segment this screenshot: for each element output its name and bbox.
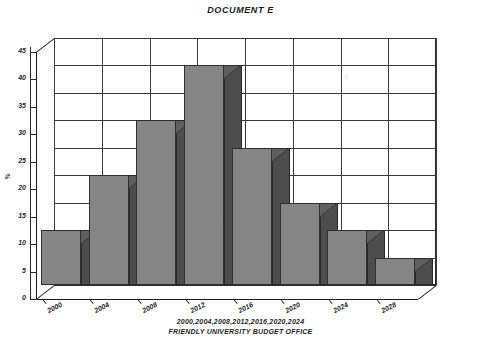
y-tick-20 — [30, 189, 37, 190]
y-tick-5 — [30, 272, 37, 273]
x-tick-label-2028: 2028 — [380, 301, 397, 314]
y-tick-label-40: 40 — [4, 74, 26, 81]
x-tick-label-2020: 2020 — [284, 301, 301, 314]
bar-front-face — [89, 175, 129, 285]
y-tick-label-0: 0 — [4, 294, 26, 301]
x-tick-label-2008: 2008 — [141, 301, 158, 314]
plot-area: 051015202530354045 % 2000200420082012201… — [0, 0, 481, 351]
bar-front-face — [136, 120, 176, 285]
bar-front-face — [280, 203, 320, 285]
bar-2028[interactable] — [375, 258, 433, 299]
x-axis-baseline — [36, 299, 418, 300]
bar-front-face — [327, 230, 367, 285]
y-tick-0 — [30, 299, 37, 300]
gridline-v-7 — [388, 38, 389, 285]
y-tick-35 — [30, 107, 37, 108]
y-axis-title: % — [4, 173, 11, 179]
chart-page: DOCUMENT E 051015202530354045 % 20002004… — [0, 0, 481, 351]
footer-categories: 2000,2004,2008,2012,2016,2020,2024 — [0, 318, 481, 325]
y-tick-40 — [30, 79, 37, 80]
x-tick-label-2012: 2012 — [189, 301, 206, 314]
y-tick-label-25: 25 — [4, 157, 26, 164]
bar-front-face — [232, 148, 272, 285]
y-axis-line — [36, 52, 37, 299]
y-tick-label-20: 20 — [4, 184, 26, 191]
bar-front-face — [184, 65, 224, 285]
y-axis-outer-spine — [30, 47, 31, 299]
depth-edge-top-left — [36, 38, 55, 53]
x-tick-label-2024: 2024 — [332, 301, 349, 314]
bar-front-face — [41, 230, 81, 285]
y-tick-25 — [30, 162, 37, 163]
x-tick-label-2000: 2000 — [46, 301, 63, 314]
footer-source: FRIENDLY UNIVERSITY BUDGET OFFICE — [0, 328, 481, 335]
y-tick-30 — [30, 134, 37, 135]
y-tick-15 — [30, 217, 37, 218]
y-tick-label-45: 45 — [4, 47, 26, 54]
y-tick-label-5: 5 — [4, 267, 26, 274]
gridline-v-8 — [436, 38, 437, 285]
y-tick-45 — [30, 52, 37, 53]
y-tick-10 — [30, 244, 37, 245]
y-tick-label-35: 35 — [4, 102, 26, 109]
y-tick-label-10: 10 — [4, 239, 26, 246]
bar-front-face — [375, 258, 415, 285]
y-tick-label-15: 15 — [4, 212, 26, 219]
x-tick-label-2016: 2016 — [237, 301, 254, 314]
y-tick-label-30: 30 — [4, 129, 26, 136]
x-tick-label-2004: 2004 — [93, 301, 110, 314]
